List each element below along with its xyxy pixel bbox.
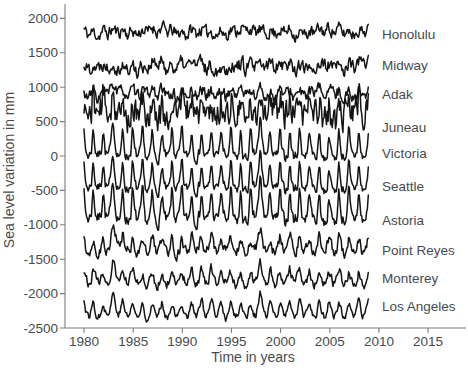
trace-honolulu xyxy=(84,21,368,42)
y-tick-label: 1500 xyxy=(28,45,58,60)
figure: 2000150010005000-500-1000-1500-2000-2500… xyxy=(0,0,468,377)
station-label-midway: Midway xyxy=(382,58,428,73)
x-tick-label: 1980 xyxy=(69,334,99,349)
y-tick-label: -500 xyxy=(31,183,58,198)
trace-adak xyxy=(84,83,368,104)
station-label-juneau: Juneau xyxy=(382,120,426,135)
station-label-los-angeles: Los Angeles xyxy=(382,299,456,314)
station-label-monterey: Monterey xyxy=(382,271,439,286)
y-tick-label: 500 xyxy=(35,114,58,129)
y-tick-label: -1000 xyxy=(23,217,58,232)
y-tick-label: -2500 xyxy=(23,321,58,336)
x-tick-label: 1995 xyxy=(216,334,246,349)
trace-monterey xyxy=(84,259,368,291)
y-tick-label: 2000 xyxy=(28,11,58,26)
y-tick-label: -2000 xyxy=(23,286,58,301)
sea-level-chart: 2000150010005000-500-1000-1500-2000-2500… xyxy=(0,0,468,377)
station-label-honolulu: Honolulu xyxy=(382,27,435,42)
x-tick-label: 2000 xyxy=(266,334,296,349)
trace-astoria xyxy=(84,176,368,230)
station-label-astoria: Astoria xyxy=(382,213,425,228)
x-tick-label: 2015 xyxy=(413,334,443,349)
x-axis-label: Time in years xyxy=(211,349,295,365)
x-tick-label: 2005 xyxy=(315,334,345,349)
station-label-point-reyes: Point Reyes xyxy=(382,243,455,258)
station-label-seattle: Seattle xyxy=(382,179,424,194)
trace-midway xyxy=(84,54,368,78)
trace-juneau xyxy=(84,84,368,133)
y-tick-label: 1000 xyxy=(28,80,58,95)
x-tick-label: 1990 xyxy=(167,334,197,349)
y-tick-label: -1500 xyxy=(23,252,58,267)
x-tick-label: 1985 xyxy=(118,334,148,349)
y-axis-label: Sea level variation in mm xyxy=(1,92,17,248)
trace-point-reyes xyxy=(84,225,368,261)
station-labels: HonoluluMidwayAdakJuneauVictoriaSeattleA… xyxy=(382,27,456,313)
station-label-adak: Adak xyxy=(382,87,413,102)
traces xyxy=(84,21,368,322)
station-label-victoria: Victoria xyxy=(382,146,427,161)
trace-los-angeles xyxy=(84,291,368,322)
y-tick-label: 0 xyxy=(50,149,58,164)
x-tick-label: 2010 xyxy=(364,334,394,349)
